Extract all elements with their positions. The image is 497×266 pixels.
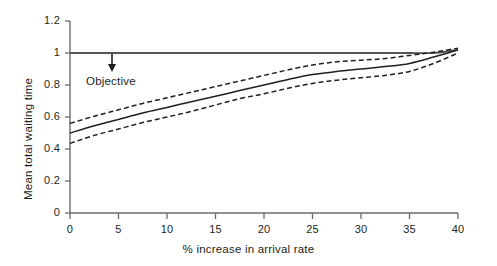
- x-axis-title: % increase in arrival rate: [0, 243, 497, 255]
- chart-figure: 00.20.40.60.811.2 0510152025303540 % inc…: [0, 0, 497, 266]
- x-tick-label: 30: [341, 223, 381, 235]
- data-series-line: [70, 50, 458, 53]
- x-tick-label: 10: [147, 223, 187, 235]
- x-tick-label: 5: [99, 223, 139, 235]
- x-tick-label: 35: [390, 223, 430, 235]
- objective-annotation-label: Objective: [86, 75, 136, 87]
- x-tick-label: 40: [438, 223, 478, 235]
- x-tick-label: 0: [50, 223, 90, 235]
- y-tick-label: 1.2: [0, 14, 60, 26]
- data-series-line: [70, 53, 458, 143]
- y-tick-label: 0: [0, 206, 60, 218]
- x-tick-label: 20: [244, 223, 284, 235]
- data-series-line: [70, 50, 458, 133]
- y-axis-title: Mean total waiting time: [22, 78, 34, 200]
- y-tick-label: 1: [0, 46, 60, 58]
- x-tick-marks: [70, 213, 458, 219]
- data-series-group: [70, 48, 458, 143]
- objective-arrow-icon: [108, 54, 116, 72]
- y-tick-marks: [65, 21, 70, 213]
- x-tick-label: 25: [293, 223, 333, 235]
- x-tick-label: 15: [196, 223, 236, 235]
